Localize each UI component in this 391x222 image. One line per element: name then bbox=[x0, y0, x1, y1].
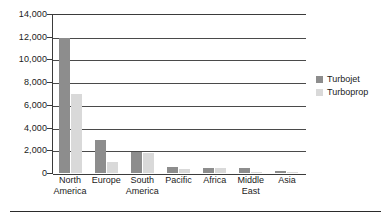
y-axis-tick-label: 12,000 bbox=[0, 33, 47, 42]
y-axis-tick-label: 14,000 bbox=[0, 10, 47, 19]
y-axis-tick-label: 6,000 bbox=[0, 101, 47, 110]
legend-swatch-icon bbox=[316, 89, 323, 96]
x-axis-label-line1: Middle bbox=[238, 175, 265, 185]
legend-item-turbojet[interactable]: Turbojet bbox=[316, 73, 368, 86]
y-axis-tick-label: 4,000 bbox=[0, 124, 47, 133]
gridline bbox=[53, 106, 306, 107]
y-axis-tick-label: 2,000 bbox=[0, 146, 47, 155]
x-axis-label: MiddleEast bbox=[233, 175, 269, 196]
bottom-divider bbox=[10, 211, 381, 212]
x-axis-label-line1: North bbox=[59, 175, 81, 185]
y-axis-tick-label: 8,000 bbox=[0, 78, 47, 87]
x-axis-labels: NorthAmericaEuropeSouthAmericaPacificAfr… bbox=[52, 175, 305, 196]
x-axis-label: NorthAmerica bbox=[52, 175, 88, 196]
x-axis-label-line1: South bbox=[131, 175, 155, 185]
x-axis-label: Europe bbox=[88, 175, 124, 196]
x-axis-label: Africa bbox=[197, 175, 233, 196]
legend-item-turboprop[interactable]: Turboprop bbox=[316, 86, 368, 99]
x-axis-label-line2: America bbox=[52, 186, 88, 197]
x-axis-label: Asia bbox=[269, 175, 305, 196]
bar-chart-figure: 02,0004,0006,0008,00010,00012,00014,000 … bbox=[0, 0, 391, 222]
gridline bbox=[53, 38, 306, 39]
gridline bbox=[53, 83, 306, 84]
y-axis-tick-label: 0 bbox=[0, 169, 47, 178]
chart-legend: TurbojetTurboprop bbox=[316, 73, 368, 99]
x-axis-label: Pacific bbox=[160, 175, 196, 196]
plot-area bbox=[52, 14, 306, 174]
x-axis-label: SouthAmerica bbox=[124, 175, 160, 196]
legend-swatch-icon bbox=[316, 76, 323, 83]
x-axis-label-line2: East bbox=[233, 186, 269, 197]
legend-label: Turboprop bbox=[327, 88, 368, 97]
gridline bbox=[53, 60, 306, 61]
legend-label: Turbojet bbox=[327, 75, 360, 84]
x-axis-label-line1: Europe bbox=[92, 175, 121, 185]
x-axis-label-line1: Pacific bbox=[165, 175, 192, 185]
y-axis-tick-label: 10,000 bbox=[0, 55, 47, 64]
x-axis-label-line1: Africa bbox=[203, 175, 226, 185]
x-axis-label-line1: Asia bbox=[278, 175, 296, 185]
gridline bbox=[53, 129, 306, 130]
gridline bbox=[53, 151, 306, 152]
x-axis-label-line2: America bbox=[124, 186, 160, 197]
gridlines bbox=[53, 15, 306, 174]
